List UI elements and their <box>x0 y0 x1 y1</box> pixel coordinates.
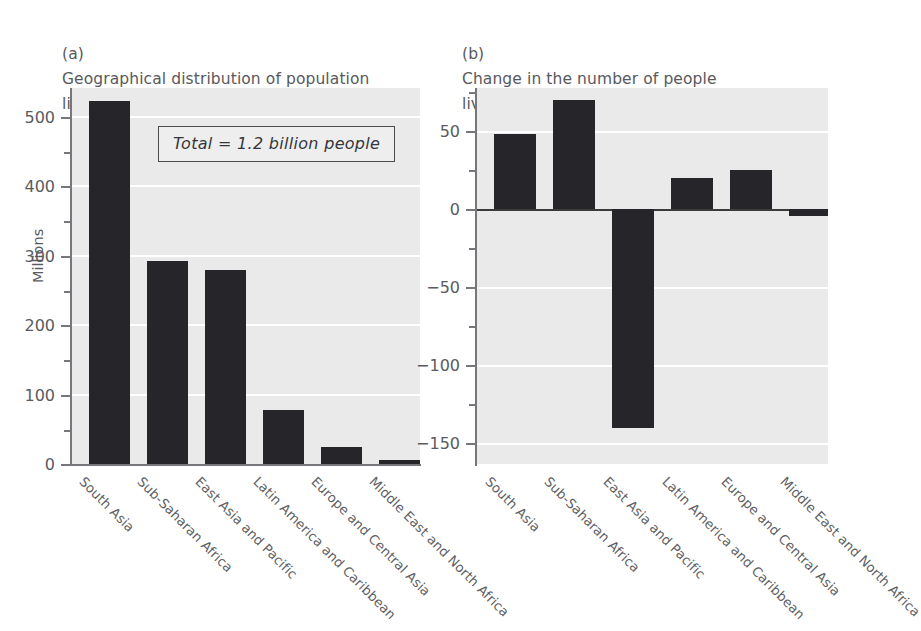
panel-b-tag: (b) <box>462 42 484 67</box>
y-tick-label: 500 <box>10 108 55 127</box>
bar-sub-saharan-africa <box>147 261 188 464</box>
panel-a-tag: (a) <box>62 42 84 67</box>
y-tick-major <box>466 209 475 211</box>
panel-b-plot-area <box>476 88 828 464</box>
y-tick-label: 400 <box>10 177 55 196</box>
y-tick-label: −150 <box>398 434 460 453</box>
panel-a-y-axis <box>70 88 72 466</box>
y-tick-label: −50 <box>405 278 460 297</box>
bar-latin-america-and-caribbean <box>263 410 304 464</box>
figure: (a) Geographical distribution of populat… <box>0 0 921 631</box>
y-tick-label: 0 <box>415 200 460 219</box>
bar-europe-and-central-asia <box>321 447 362 464</box>
y-tick-minor <box>64 221 70 223</box>
x-category-label: Sub-Saharan Africa <box>541 474 642 575</box>
bar-latin-america-and-caribbean <box>671 178 713 209</box>
y-tick-minor <box>64 360 70 362</box>
y-tick-major <box>466 287 475 289</box>
panel-a-x-axis <box>70 464 421 466</box>
x-category-label: South Asia <box>482 474 543 535</box>
y-tick-major <box>466 131 475 133</box>
bar-middle-east-and-north-africa <box>789 209 828 216</box>
x-category-label: East Asia and Pacific <box>600 474 708 582</box>
x-category-label: Europe and Central Asia <box>718 474 843 599</box>
bar-sub-saharan-africa <box>553 100 595 209</box>
y-tick-minor <box>469 248 475 250</box>
y-tick-minor <box>469 404 475 406</box>
y-tick-minor <box>64 430 70 432</box>
y-tick-major <box>61 256 70 258</box>
bar-south-asia <box>494 134 536 209</box>
gridline <box>476 443 828 445</box>
x-category-label: Sub-Saharan Africa <box>134 474 235 575</box>
y-tick-major <box>466 443 475 445</box>
y-tick-major <box>61 464 70 466</box>
bar-east-asia-and-pacific <box>612 209 654 428</box>
y-tick-label: 300 <box>10 247 55 266</box>
gridline <box>476 131 828 133</box>
y-tick-label: 100 <box>10 386 55 405</box>
y-tick-minor <box>469 92 475 94</box>
y-tick-label: −100 <box>398 356 460 375</box>
bar-south-asia <box>89 101 130 464</box>
panel-b-y-axis <box>475 88 477 466</box>
x-category-label: Europe and Central Asia <box>308 474 433 599</box>
bar-europe-and-central-asia <box>730 170 772 209</box>
y-tick-major <box>61 186 70 188</box>
y-tick-label: 200 <box>10 316 55 335</box>
y-tick-label: 50 <box>415 122 460 141</box>
y-tick-major <box>61 117 70 119</box>
y-tick-minor <box>469 326 475 328</box>
total-annotation: Total = 1.2 billion people <box>158 126 395 162</box>
y-tick-major <box>61 395 70 397</box>
y-tick-major <box>466 365 475 367</box>
y-tick-minor <box>64 152 70 154</box>
x-category-label: South Asia <box>76 474 137 535</box>
y-tick-label: 0 <box>10 455 55 474</box>
y-tick-minor <box>64 291 70 293</box>
x-category-label: East Asia and Pacific <box>192 474 300 582</box>
panel-a: (a) Geographical distribution of populat… <box>0 0 460 631</box>
y-tick-major <box>61 325 70 327</box>
bar-east-asia-and-pacific <box>205 270 246 464</box>
y-tick-minor <box>469 170 475 172</box>
panel-b: (b) Change in the number of people livin… <box>460 0 921 631</box>
